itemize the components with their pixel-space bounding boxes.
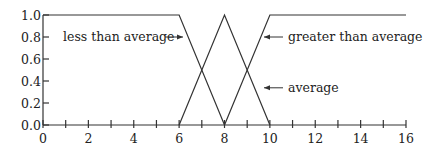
x-tick-label: 0: [39, 131, 47, 146]
x-tick-label: 16: [398, 131, 414, 146]
arrow-head-icon: [264, 35, 270, 40]
x-tick-label: 4: [130, 131, 138, 146]
x-tick-label: 2: [84, 131, 92, 146]
arrow-head-icon: [264, 85, 270, 90]
x-tick-label: 14: [353, 131, 369, 146]
label-average: average: [288, 80, 339, 95]
series-average: [179, 15, 270, 125]
membership-function-chart: 0.00.20.40.60.81.0 0246810121416 less th…: [0, 0, 433, 151]
y-tick-label: 0.4: [21, 74, 41, 89]
x-tick-label: 10: [262, 131, 278, 146]
y-tick-label: 1.0: [21, 8, 41, 23]
label-greater-than-average: greater than average: [288, 29, 423, 44]
annotations: less than averagegreater than averageave…: [63, 29, 423, 95]
y-tick-label: 0.6: [21, 52, 41, 67]
label-less-than-average: less than average: [63, 29, 175, 44]
y-tick-label: 0.8: [21, 30, 41, 45]
y-ticks: 0.00.20.40.60.81.0: [21, 8, 49, 133]
x-tick-label: 6: [175, 131, 183, 146]
x-tick-label: 12: [307, 131, 323, 146]
y-tick-label: 0.2: [21, 96, 41, 111]
x-ticks: 0246810121416: [39, 120, 414, 146]
arrow-head-icon: [177, 35, 183, 40]
x-tick-label: 8: [221, 131, 229, 146]
